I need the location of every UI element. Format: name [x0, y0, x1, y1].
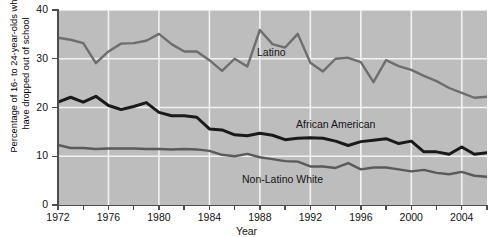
series-label-african-american: African American — [296, 118, 375, 130]
x-tick — [209, 205, 210, 210]
y-axis-line — [57, 9, 59, 206]
y-axis-title: Percentage of 16- to 24-year-olds who ha… — [9, 0, 32, 174]
series-label-latino: Latino — [257, 46, 286, 58]
plot-area: Latino African American Non-Latino White — [58, 10, 487, 205]
x-tick — [158, 205, 159, 210]
x-tick — [284, 205, 285, 210]
x-tick — [360, 205, 361, 210]
y-tick-label: 0 — [20, 198, 48, 210]
x-tick — [234, 205, 235, 210]
x-tick — [183, 205, 184, 210]
x-tick — [259, 205, 260, 210]
x-tick-label: 1984 — [189, 211, 229, 223]
x-tick — [108, 205, 109, 210]
x-tick — [335, 205, 336, 210]
y-tick — [52, 204, 57, 205]
x-tick — [83, 205, 84, 210]
x-axis-line — [57, 205, 487, 207]
series-label-non-latino-white: Non-Latino White — [242, 173, 323, 185]
y-tick-label: 30 — [20, 52, 48, 64]
y-tick-label: 40 — [20, 3, 48, 15]
x-tick — [310, 205, 311, 210]
y-tick — [52, 58, 57, 59]
x-tick-label: 1976 — [88, 211, 128, 223]
x-axis-title: Year — [0, 225, 493, 237]
line-chart-figure: Percentage of 16- to 24-year-olds who ha… — [0, 0, 493, 237]
x-tick-label: 1988 — [240, 211, 280, 223]
x-tick — [461, 205, 462, 210]
x-tick — [57, 205, 58, 210]
x-tick-label: 1972 — [38, 211, 78, 223]
y-tick — [52, 9, 57, 10]
x-tick-label: 1996 — [341, 211, 381, 223]
y-tick — [52, 156, 57, 157]
x-tick — [133, 205, 134, 210]
x-tick — [385, 205, 386, 210]
y-tick — [52, 107, 57, 108]
y-tick-label: 20 — [20, 101, 48, 113]
x-tick — [486, 205, 487, 210]
x-tick — [411, 205, 412, 210]
x-tick-label: 2004 — [442, 211, 482, 223]
x-tick — [436, 205, 437, 210]
x-tick-label: 1992 — [290, 211, 330, 223]
y-tick-label: 10 — [20, 149, 48, 161]
x-tick-label: 1980 — [139, 211, 179, 223]
x-tick-label: 2000 — [391, 211, 431, 223]
